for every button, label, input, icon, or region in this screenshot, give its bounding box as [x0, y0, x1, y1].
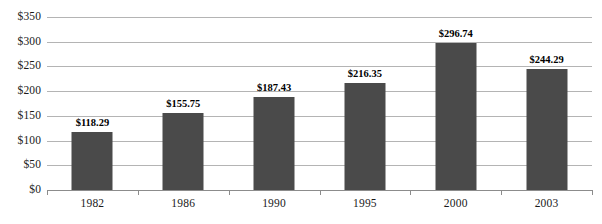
bar[interactable] — [344, 83, 385, 190]
bars-layer: $118.29$155.75$187.43$216.35$296.74$244.… — [47, 17, 592, 190]
x-axis-tick — [592, 190, 593, 195]
y-tick-label: $300 — [0, 36, 41, 48]
y-tick-label: $350 — [0, 11, 41, 23]
y-tick-label: $0 — [0, 184, 41, 196]
bar-group: $187.43 — [229, 17, 320, 190]
x-tick-label: 2000 — [410, 197, 501, 210]
bar-group: $155.75 — [138, 17, 229, 190]
x-axis-tick — [501, 190, 502, 195]
x-axis-tick — [47, 190, 48, 195]
bar[interactable] — [72, 132, 113, 190]
x-axis-tick — [138, 190, 139, 195]
y-tick-label: $150 — [0, 110, 41, 122]
x-tick-label: 1990 — [229, 197, 320, 210]
x-tick-label: 1995 — [320, 197, 411, 210]
x-axis-tick — [410, 190, 411, 195]
bar[interactable] — [254, 97, 295, 190]
y-tick-label: $200 — [0, 85, 41, 97]
bar-value-label: $118.29 — [76, 117, 110, 128]
bar[interactable] — [163, 113, 204, 190]
bar-group: $216.35 — [320, 17, 411, 190]
bar-value-label: $155.75 — [166, 98, 200, 109]
y-tick-label: $250 — [0, 60, 41, 72]
bar-chart: $350 $300 $250 $200 $150 $100 $50 $0 $11… — [0, 0, 602, 224]
x-axis-tick — [320, 190, 321, 195]
bar-value-label: $244.29 — [530, 54, 564, 65]
bar[interactable] — [526, 69, 567, 190]
x-tick-label: 2003 — [501, 197, 592, 210]
x-tick-label: 1986 — [138, 197, 229, 210]
bar-group: $118.29 — [47, 17, 138, 190]
bar-value-label: $187.43 — [257, 82, 291, 93]
y-tick-label: $50 — [0, 159, 41, 171]
x-tick-label: 1982 — [47, 197, 138, 210]
bar-value-label: $296.74 — [439, 28, 473, 39]
bar[interactable] — [435, 43, 476, 190]
bar-group: $296.74 — [410, 17, 501, 190]
x-axis: 198219861990199520002003 — [47, 197, 592, 217]
bar-value-label: $216.35 — [348, 68, 382, 79]
x-axis-tick — [229, 190, 230, 195]
y-axis: $350 $300 $250 $200 $150 $100 $50 $0 — [0, 0, 41, 224]
y-tick-label: $100 — [0, 135, 41, 147]
bar-group: $244.29 — [501, 17, 592, 190]
